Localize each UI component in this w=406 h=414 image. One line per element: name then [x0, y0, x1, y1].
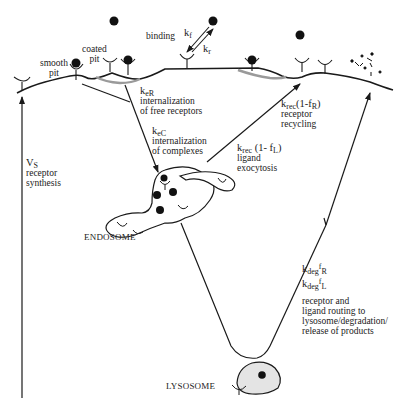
smooth-pit-label: smooth pit [40, 58, 68, 78]
degradation-release-arrow [326, 93, 370, 225]
lysosome [232, 362, 280, 395]
krec-receptor-label: krec(1-fR) receptor recycling [281, 99, 321, 129]
kr-label: kr [203, 44, 211, 54]
keC-label: keC internalization of complexes [152, 126, 207, 156]
krec-ligand-label: krec (1- fL) ligand exocytosis [237, 143, 281, 173]
binding-label: binding [146, 31, 175, 41]
endocytosis-diagram: smooth pit coated pit binding kf kr keR … [0, 0, 406, 414]
plasma-membrane [17, 68, 393, 93]
kdeg-labels: kdegfR kdegfL receptor and ligand routin… [302, 264, 388, 336]
vs-label: VS receptor synthesis [26, 158, 61, 188]
endosome [106, 167, 235, 237]
lysosome-label: LYSOSOME [166, 381, 215, 391]
endosome-label: ENDOSOME [84, 232, 136, 242]
kf-label: kf [184, 28, 192, 38]
coated-pit-label: coated pit [82, 44, 107, 64]
keR-label: keR internalization of free receptors [140, 86, 202, 116]
degradation-products [351, 53, 381, 76]
